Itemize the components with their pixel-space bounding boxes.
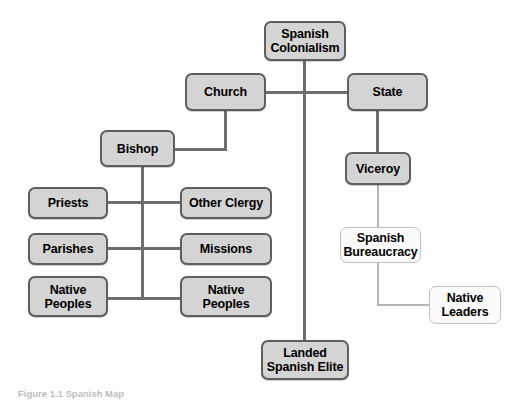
node-label: Church: [204, 85, 247, 99]
node-spanish-colonialism[interactable]: Spanish Colonialism: [264, 21, 346, 61]
node-label: Bishop: [117, 142, 158, 156]
node-label: Native Peoples: [45, 283, 92, 311]
node-label: Other Clergy: [189, 196, 263, 210]
connector-row1-right: [141, 201, 182, 204]
node-label: Native Peoples: [203, 283, 250, 311]
diagram-canvas: Spanish Colonialism Church State Bishop …: [0, 0, 524, 401]
node-label: Priests: [48, 196, 89, 210]
node-native-peoples-right[interactable]: Native Peoples: [180, 276, 272, 317]
node-label: Native Leaders: [442, 291, 489, 319]
node-label: Landed Spanish Elite: [267, 346, 344, 374]
connector-bureaucracy-down: [377, 262, 379, 306]
node-label: Viceroy: [356, 162, 400, 176]
node-native-leaders[interactable]: Native Leaders: [429, 286, 501, 324]
connector-row3-right: [141, 297, 182, 300]
connector-row2-right: [141, 247, 182, 250]
connector-trunk-vertical: [303, 60, 306, 341]
node-missions[interactable]: Missions: [180, 233, 272, 265]
node-viceroy[interactable]: Viceroy: [345, 152, 411, 185]
node-label: Parishes: [43, 242, 94, 256]
figure-root: Spanish Colonialism Church State Bishop …: [0, 0, 524, 401]
node-parishes[interactable]: Parishes: [28, 233, 108, 265]
node-landed-spanish-elite[interactable]: Landed Spanish Elite: [261, 340, 349, 380]
connector-row1-left: [107, 201, 144, 204]
connector-church-state-crossbar: [265, 91, 349, 94]
node-state[interactable]: State: [347, 73, 428, 111]
connector-state-to-viceroy: [376, 110, 379, 153]
node-spanish-bureaucracy[interactable]: Spanish Bureaucracy: [340, 227, 421, 263]
connector-row3-left: [107, 297, 144, 300]
node-label: State: [373, 85, 403, 99]
connector-church-down: [224, 110, 227, 151]
node-bishop[interactable]: Bishop: [100, 130, 175, 167]
node-native-peoples-left[interactable]: Native Peoples: [28, 276, 108, 317]
node-other-clergy[interactable]: Other Clergy: [180, 187, 272, 219]
node-priests[interactable]: Priests: [28, 187, 108, 219]
connector-church-to-bishop: [174, 148, 227, 151]
node-label: Missions: [200, 242, 252, 256]
connector-bishop-spine: [141, 166, 144, 300]
connector-bureaucracy-to-native-leaders: [377, 304, 430, 306]
node-label: Spanish Colonialism: [270, 27, 339, 55]
figure-caption: Figure 1.1 Spanish Map: [18, 388, 124, 399]
connector-viceroy-to-bureaucracy: [377, 183, 379, 228]
node-label: Spanish Bureaucracy: [343, 231, 417, 259]
connector-row2-left: [107, 247, 144, 250]
node-church[interactable]: Church: [185, 73, 266, 111]
